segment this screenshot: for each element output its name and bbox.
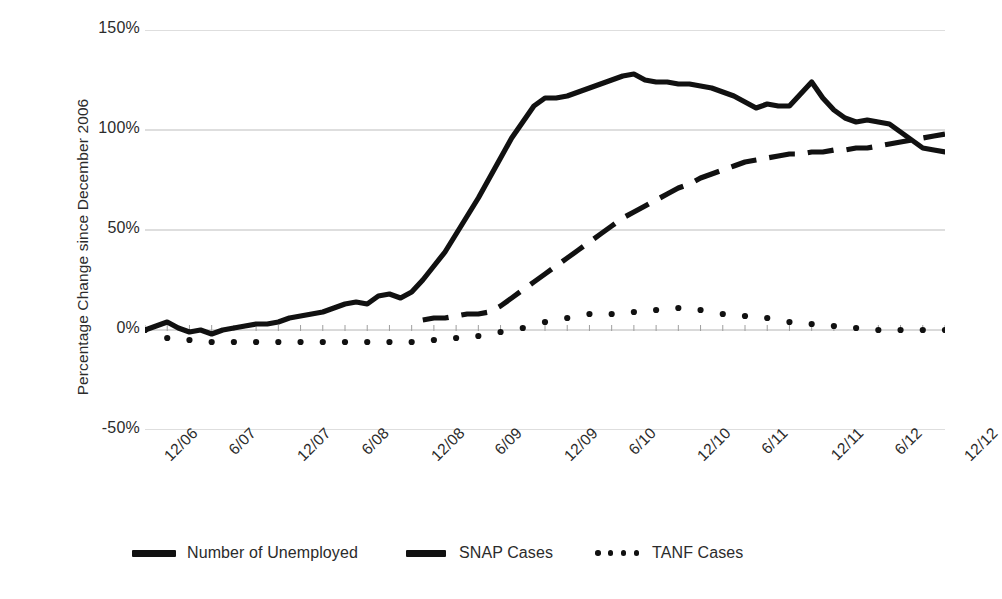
data-point	[364, 339, 370, 345]
data-point	[497, 329, 503, 335]
data-point	[542, 319, 548, 325]
data-point	[253, 339, 259, 345]
data-point	[742, 313, 748, 319]
series-number-of-unemployed	[145, 74, 945, 334]
data-point	[320, 339, 326, 345]
data-point	[209, 339, 215, 345]
data-point	[853, 325, 859, 331]
gridlines	[145, 30, 945, 430]
x-axis-tick-label: 12/07	[294, 424, 335, 465]
data-point	[275, 339, 281, 345]
data-point	[809, 321, 815, 327]
data-point	[342, 339, 348, 345]
data-point	[875, 327, 881, 333]
chart-legend: Number of UnemployedSNAP CasesTANF Cases	[132, 536, 852, 570]
legend-item-label: SNAP Cases	[459, 544, 553, 562]
legend-item-label: Number of Unemployed	[187, 544, 358, 562]
chart-canvas	[145, 30, 945, 430]
y-axis-tick-label: 50%	[62, 219, 140, 237]
data-point	[920, 327, 926, 333]
data-point	[675, 305, 681, 311]
x-axis-tick-labels: 12/066/0712/076/0812/086/0912/096/1012/1…	[145, 424, 950, 534]
plot-area	[145, 30, 945, 430]
x-axis-tick-label: 6/11	[758, 424, 792, 458]
dashed-line-icon	[404, 546, 448, 560]
data-point	[720, 311, 726, 317]
x-axis-tick-label: 6/10	[625, 424, 660, 459]
legend-item[interactable]: SNAP Cases	[404, 544, 553, 562]
data-point	[564, 315, 570, 321]
data-point	[897, 327, 903, 333]
data-point	[586, 311, 592, 317]
data-point	[831, 323, 837, 329]
data-point	[631, 309, 637, 315]
y-axis-tick-label: 150%	[62, 19, 140, 37]
data-point	[409, 339, 415, 345]
data-point	[386, 339, 392, 345]
solid-line-icon	[132, 546, 176, 560]
data-point	[231, 339, 237, 345]
y-axis-tick-labels: 150%100%50%0%-50%	[58, 0, 140, 460]
data-point	[520, 325, 526, 331]
x-axis-tick-label: 6/08	[358, 424, 393, 459]
data-point	[609, 311, 615, 317]
data-point	[786, 319, 792, 325]
x-axis-tick-label: 6/12	[891, 424, 926, 459]
y-axis-tick-label: 100%	[62, 119, 140, 137]
x-axis-tick-label: 6/07	[225, 424, 260, 459]
legend-item-label: TANF Cases	[652, 544, 743, 562]
x-axis-tick-label: 12/10	[694, 424, 735, 465]
y-axis-tick-label: 0%	[62, 319, 140, 337]
data-point	[942, 327, 945, 333]
data-series	[145, 74, 945, 345]
dotted-line-icon	[593, 546, 641, 560]
data-point	[475, 333, 481, 339]
legend-item[interactable]: TANF Cases	[593, 544, 743, 562]
data-point	[697, 307, 703, 313]
x-axis-tick-label: 12/09	[561, 424, 602, 465]
data-point	[431, 337, 437, 343]
data-point	[764, 315, 770, 321]
data-point	[186, 337, 192, 343]
x-axis-tick-label: 12/08	[427, 424, 468, 465]
x-axis-tick-label: 12/06	[161, 424, 202, 465]
x-axis-tick-label: 6/09	[491, 424, 526, 459]
x-axis-tick-label: 12/12	[961, 424, 1002, 465]
data-point	[164, 335, 170, 341]
data-point	[653, 307, 659, 313]
data-point	[297, 339, 303, 345]
x-axis-tick-label: 12/11	[827, 424, 867, 464]
y-axis-tick-label: -50%	[62, 419, 140, 437]
legend-item[interactable]: Number of Unemployed	[132, 544, 358, 562]
data-point	[453, 335, 459, 341]
